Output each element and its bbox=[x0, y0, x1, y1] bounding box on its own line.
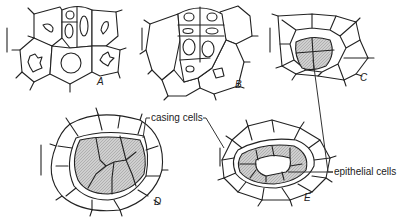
panel-label-a: A bbox=[97, 77, 104, 87]
panel-label-d: D bbox=[154, 197, 161, 207]
casing-cells-label: casing cells bbox=[151, 113, 203, 123]
diagram-figure: casing cells epithelial cells A B C D E bbox=[0, 0, 397, 224]
panel-e-drawing bbox=[218, 120, 336, 206]
panel-c-drawing bbox=[270, 14, 374, 86]
panel-label-c: C bbox=[360, 73, 367, 83]
epithelial-cells-label: epithelial cells bbox=[334, 167, 396, 177]
panel-label-b: B bbox=[235, 80, 242, 90]
panel-label-e: E bbox=[304, 193, 311, 203]
panel-d-drawing bbox=[41, 108, 168, 216]
panel-a-drawing bbox=[7, 7, 126, 93]
